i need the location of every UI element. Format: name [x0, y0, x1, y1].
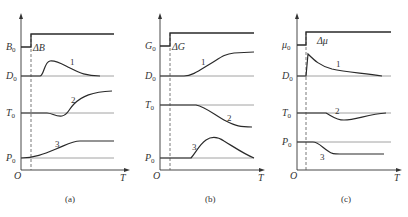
panel-c: μ0 Δμ D0 1 T0 2 P0 3 O T (c): [281, 13, 402, 204]
d0-label: D0: [5, 70, 17, 83]
curve-3: [160, 137, 254, 158]
curve-3-number: 3: [192, 142, 197, 152]
panel-caption: (b): [205, 194, 216, 204]
panel-caption: (c): [341, 194, 351, 204]
curve-3: [297, 142, 384, 154]
curve-3-number: 3: [320, 152, 325, 162]
x-axis-label: T: [120, 172, 127, 183]
p0-label: P0: [281, 136, 292, 149]
curve-1-number: 1: [201, 57, 206, 67]
x-axis-label: T: [258, 172, 265, 183]
origin-label: O: [14, 170, 21, 181]
y-axis-arrow-icon: [158, 13, 162, 19]
curve-1: [21, 61, 100, 76]
input-label: B0: [6, 41, 16, 54]
x-axis-label: T: [394, 172, 401, 183]
p0-label: P0: [5, 152, 16, 165]
origin-label: O: [290, 170, 297, 181]
t0-label: T0: [6, 107, 16, 120]
d0-label: D0: [281, 70, 293, 83]
p0-label: P0: [144, 152, 155, 165]
panel-caption: (a): [65, 194, 75, 204]
curve-2-number: 2: [71, 95, 76, 105]
panel-b: G0 ΔG D0 1 T0 2 P0 3 O T (b): [144, 13, 265, 204]
curve-3: [21, 141, 114, 158]
curve-2-number: 2: [227, 113, 232, 123]
curve-1: [160, 52, 254, 76]
y-axis-arrow-icon: [19, 13, 23, 19]
t0-label: T0: [145, 99, 155, 112]
curve-2-number: 2: [335, 106, 340, 116]
step-response-figure: B0 ΔB D0 1 T0 2 P0 3 O T (a) G0 ΔG D0 1: [0, 0, 408, 217]
curve-2: [21, 91, 112, 116]
origin-label: O: [153, 170, 160, 181]
curve-3-number: 3: [55, 139, 60, 149]
input-label: G0: [145, 40, 156, 53]
curve-2: [297, 113, 386, 120]
panel-a: B0 ΔB D0 1 T0 2 P0 3 O T (a): [5, 13, 130, 204]
d0-label: D0: [144, 70, 156, 83]
y-axis-arrow-icon: [295, 13, 299, 19]
input-label: μ0: [281, 39, 291, 52]
delta-label: ΔG: [171, 41, 185, 52]
input-step-mu: [297, 32, 391, 45]
t0-label: T0: [282, 107, 292, 120]
curve-2: [160, 105, 252, 127]
curve-1-number: 1: [70, 57, 75, 67]
curve-1-number: 1: [336, 59, 341, 69]
delta-label: ΔB: [32, 42, 45, 53]
delta-label: Δμ: [316, 35, 328, 46]
